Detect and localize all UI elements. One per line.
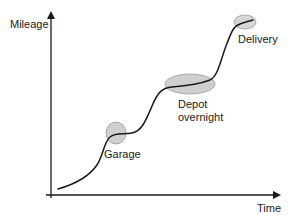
depot-label-line1: Depot [178,98,207,110]
garage-highlight [106,122,126,144]
mileage-time-diagram: Mileage Time Garage Depot overnight Deli… [0,0,295,220]
garage-label: Garage [104,148,141,160]
delivery-label: Delivery [238,33,278,45]
depot-highlight [165,74,215,94]
mileage-curve [58,20,253,189]
x-axis-label: Time [257,202,281,214]
depot-label-line2: overnight [178,111,223,123]
y-axis-label: Mileage [10,18,49,30]
